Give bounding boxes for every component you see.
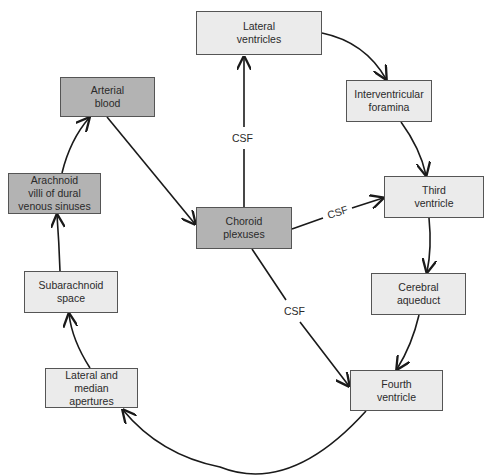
node-label: Subarachnoid space: [39, 279, 104, 305]
node-fourth-ventricle: Fourth ventricle: [350, 370, 443, 411]
node-label: Arachnoid villi of dural venous sinuses: [18, 174, 90, 213]
node-third-ventricle: Third ventricle: [384, 176, 484, 218]
csf-label-down: CSF: [283, 305, 306, 317]
node-label: Lateral ventricles: [237, 20, 281, 46]
csf-label-up: CSF: [231, 132, 254, 144]
node-subarachnoid-space: Subarachnoid space: [24, 271, 118, 313]
edge-villi-to-arterial: [62, 118, 89, 173]
node-label: Lateral and median apertures: [49, 369, 134, 408]
edge-foramina-to-third: [401, 122, 426, 175]
node-lateral-median-apertures: Lateral and median apertures: [45, 368, 138, 408]
node-arterial-blood: Arterial blood: [60, 77, 155, 117]
node-interventricular-foramina: Interventricular foramina: [346, 80, 432, 122]
edge-third-to-aqueduct: [427, 218, 430, 272]
node-label: Fourth ventricle: [377, 378, 416, 404]
node-label: Interventricular foramina: [354, 88, 423, 114]
node-choroid-plexuses: Choroid plexuses: [196, 207, 292, 249]
edge-choroid-to-fourth-ventricle: [252, 249, 349, 386]
node-label: Choroid plexuses: [223, 215, 264, 241]
edge-fourth-to-apertures: [123, 410, 366, 474]
edge-apertures-to-subarachnoid: [69, 314, 90, 368]
edge-aqueduct-to-fourth: [397, 315, 419, 369]
node-label: Third ventricle: [414, 184, 453, 210]
node-lateral-ventricles: Lateral ventricles: [196, 11, 322, 55]
edge-lateral-to-foramina: [322, 33, 386, 79]
csf-flow-diagram: CSF CSF CSF Lateral ventricles Intervent…: [0, 0, 486, 475]
node-label: Cerebral aqueduct: [397, 281, 440, 307]
node-label: Arterial blood: [91, 84, 124, 110]
node-arachnoid-villi: Arachnoid villi of dural venous sinuses: [8, 173, 101, 214]
edge-subarachnoid-to-villi: [57, 215, 60, 271]
node-cerebral-aqueduct: Cerebral aqueduct: [371, 273, 466, 315]
edge-arterial-to-choroid: [107, 117, 195, 224]
